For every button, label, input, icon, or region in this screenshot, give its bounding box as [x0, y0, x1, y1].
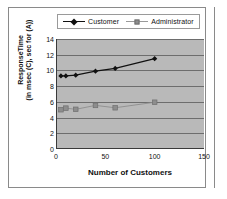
y-axis-title-line2: (in msec (C), sec for (A)) — [25, 20, 33, 101]
adjacent-panel-edge — [214, 7, 227, 188]
chart-figure-frame: Customer Administrator ResponseTime (in … — [8, 7, 206, 188]
x-tick-label: 150 — [194, 153, 214, 160]
y-tick-label: 12 — [38, 51, 54, 58]
x-axis-title: Number of Customers — [56, 168, 204, 177]
x-tick-label: 100 — [145, 153, 165, 160]
square-marker-icon — [135, 19, 140, 24]
square-marker-icon — [152, 100, 157, 105]
diamond-marker-icon — [70, 18, 77, 25]
x-axis-tick-labels: 050100150 — [56, 153, 204, 165]
series-customer — [58, 56, 157, 78]
square-marker-icon — [59, 107, 64, 112]
square-marker-icon — [93, 103, 98, 108]
y-tick-label: 6 — [38, 98, 54, 105]
series-administrator — [59, 100, 157, 112]
diamond-marker-icon — [113, 66, 118, 71]
diamond-marker-icon — [93, 69, 98, 74]
y-tick-label: 2 — [38, 130, 54, 137]
chart-legend: Customer Administrator — [57, 14, 200, 29]
y-tick-label: 10 — [38, 67, 54, 74]
legend-swatch-customer — [63, 17, 85, 26]
y-tick-label: 0 — [38, 146, 54, 153]
y-axis-title-line1: ResponseTime — [17, 35, 25, 85]
square-marker-icon — [113, 105, 118, 110]
y-tick-label: 4 — [38, 114, 54, 121]
legend-swatch-administrator — [126, 17, 148, 26]
x-tick-label: 0 — [46, 153, 66, 160]
y-axis-title: ResponseTime (in msec (C), sec for (A)) — [13, 4, 37, 116]
y-tick-label: 8 — [38, 83, 54, 90]
legend-entry-administrator: Administrator — [126, 17, 194, 26]
diamond-marker-icon — [73, 73, 78, 78]
x-tick-label: 50 — [95, 153, 115, 160]
square-marker-icon — [73, 107, 78, 112]
diamond-marker-icon — [58, 73, 63, 78]
data-series-layer — [56, 39, 204, 149]
legend-label-administrator: Administrator — [151, 18, 194, 25]
diamond-marker-icon — [63, 73, 68, 78]
legend-label-customer: Customer — [88, 18, 119, 25]
y-axis-tick-labels: 02468101214 — [37, 39, 54, 149]
plot-area-wrapper — [56, 39, 204, 149]
y-tick-label: 14 — [38, 36, 54, 43]
square-marker-icon — [64, 106, 69, 111]
diamond-marker-icon — [152, 56, 157, 61]
legend-entry-customer: Customer — [63, 17, 119, 26]
